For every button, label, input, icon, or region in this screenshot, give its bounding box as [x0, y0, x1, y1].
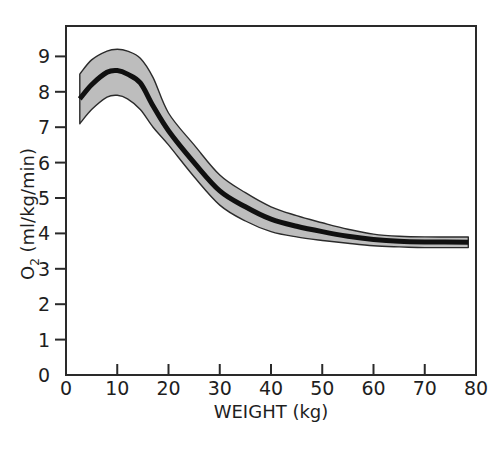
y-axis-ticks: 0123456789 — [38, 45, 66, 386]
x-axis-ticks: 01020304050607080 — [60, 364, 488, 399]
x-tick-label: 80 — [464, 377, 488, 399]
y-tick-label: 4 — [38, 222, 50, 244]
y-tick-label: 6 — [38, 152, 50, 174]
x-tick-label: 30 — [208, 377, 232, 399]
y-axis-label-main: O — [17, 266, 38, 280]
x-tick-label: 10 — [105, 377, 129, 399]
y-tick-label: 7 — [38, 116, 50, 138]
x-tick-label: 0 — [60, 377, 72, 399]
x-tick-label: 70 — [413, 377, 437, 399]
x-axis-label: WEIGHT (kg) — [214, 401, 329, 422]
x-tick-label: 60 — [361, 377, 385, 399]
y-tick-label: 2 — [38, 293, 50, 315]
chart: 01020304050607080 0123456789 WEIGHT (kg)… — [0, 0, 504, 449]
x-tick-label: 20 — [156, 377, 180, 399]
y-tick-label: 8 — [38, 81, 50, 103]
y-tick-label: 1 — [38, 329, 50, 351]
y-axis-label-subscript: 2 — [28, 258, 42, 266]
y-tick-label: 0 — [38, 364, 50, 386]
y-tick-label: 9 — [38, 45, 50, 67]
y-axis-label-units: (ml/kg/min) — [17, 148, 38, 258]
x-tick-label: 50 — [310, 377, 334, 399]
y-tick-label: 5 — [38, 187, 50, 209]
x-tick-label: 40 — [259, 377, 283, 399]
